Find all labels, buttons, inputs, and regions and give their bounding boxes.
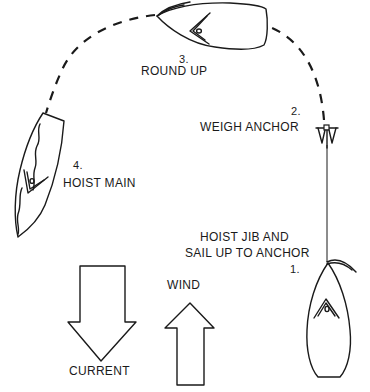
boat-step-3 <box>157 2 267 49</box>
step-1-label-line1: HOIST JIB AND <box>200 230 289 244</box>
current-label: CURRENT <box>69 364 130 378</box>
step-1-label-line2: SAIL UP TO ANCHOR <box>185 246 310 260</box>
wind-arrow-icon <box>165 303 214 385</box>
step-2-label: WEIGH ANCHOR <box>200 120 299 134</box>
step-1-number: 1. <box>290 262 300 276</box>
wind-label: WIND <box>167 278 200 292</box>
step-4-label: HOIST MAIN <box>63 176 136 190</box>
step-3-label: ROUND UP <box>141 64 207 78</box>
boat-step-4 <box>15 113 64 237</box>
step-2-number: 2. <box>291 104 301 118</box>
current-arrow-icon <box>68 266 136 361</box>
step-4-number: 4. <box>73 158 83 172</box>
anchor-icon <box>316 125 338 148</box>
course-path-dashed-left <box>46 15 155 113</box>
boat-step-1 <box>307 260 356 377</box>
